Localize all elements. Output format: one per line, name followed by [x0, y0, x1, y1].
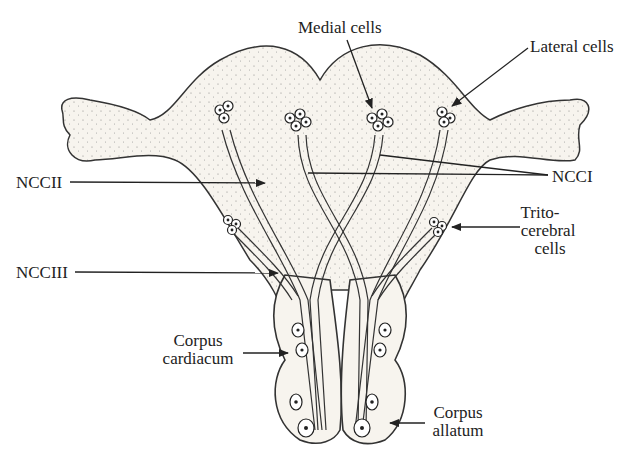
label-lateral-cells: Lateral cells [530, 37, 614, 56]
label-ncciii: NCCIII [16, 263, 68, 282]
label-ca-line2: allatum [433, 421, 484, 440]
label-nccii: NCCII [16, 173, 63, 192]
label-ncci: NCCI [552, 167, 593, 186]
leader-lateral-cells [452, 48, 528, 106]
label-trito-line2: cerebral [521, 221, 576, 240]
corpus-cardiacum-right [341, 275, 406, 444]
label-trito-line1: Trito- [520, 203, 559, 222]
neurosecretory-diagram: Medial cells Lateral cells NCCII NCCI NC… [0, 0, 643, 461]
label-cc-line2: cardiacum [163, 349, 234, 368]
label-trito-line3: cells [534, 239, 565, 258]
leader-ncciii [75, 272, 278, 273]
label-cc-line1: Corpus [173, 331, 222, 350]
label-ca-line1: Corpus [433, 403, 482, 422]
label-medial-cells: Medial cells [298, 18, 382, 37]
